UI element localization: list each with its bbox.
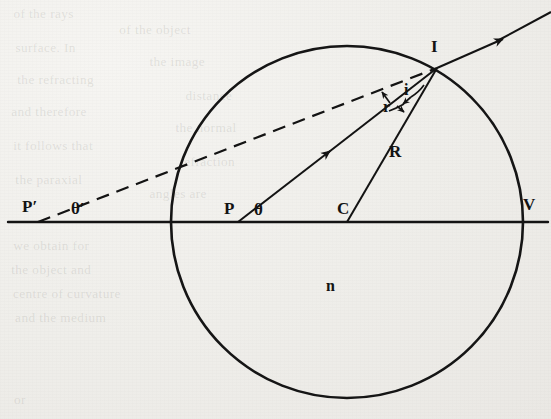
- label-theta: θ: [254, 201, 263, 218]
- incident-ray-segment-a: [238, 151, 330, 222]
- label-p-prime: P′: [22, 198, 37, 215]
- angle-i-arrow: [403, 97, 411, 104]
- label-index-n: n: [326, 278, 335, 294]
- label-c: C: [337, 200, 349, 217]
- incident-ray-segment-b: [325, 68, 437, 155]
- emergent-ray-segment-a: [437, 39, 503, 68]
- label-v: V: [523, 196, 535, 213]
- angle-r-arrow: [397, 106, 404, 112]
- label-theta-prime: θ′: [71, 200, 85, 217]
- label-p: P: [224, 200, 234, 217]
- figure-canvas: of the raysof the objectsurface. Inthe i…: [0, 0, 551, 419]
- label-angle-i: i: [404, 82, 408, 98]
- label-i-point: I: [431, 38, 438, 55]
- label-radius-R: R: [389, 143, 401, 160]
- emergent-ray-segment-b: [497, 12, 551, 41]
- virtual-ray-dashed: [38, 68, 437, 222]
- label-angle-r: r: [383, 99, 390, 115]
